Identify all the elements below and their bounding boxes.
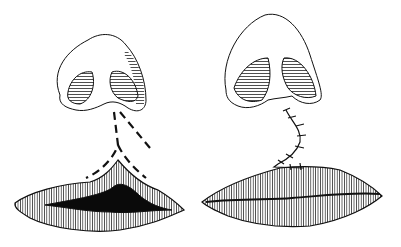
nose-before (57, 35, 146, 111)
cleft-lip-repair-illustration (0, 0, 401, 247)
nose-after (225, 14, 321, 107)
suture-line (274, 108, 306, 170)
before-panel (15, 35, 184, 232)
after-panel (202, 14, 382, 226)
repaired-lip (202, 167, 382, 227)
